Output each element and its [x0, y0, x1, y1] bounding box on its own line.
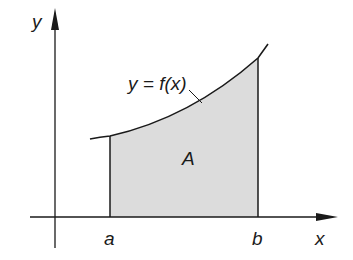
lower-bound-label: a — [104, 228, 115, 249]
curve-label-leader — [189, 90, 202, 103]
curve-label: y = f(x) — [126, 73, 187, 94]
y-axis-label: y — [30, 11, 43, 32]
y-axis-arrow-icon — [51, 8, 59, 30]
x-axis-label: x — [314, 228, 326, 249]
upper-bound-label: b — [252, 228, 263, 249]
area-under-curve-diagram: y x y = f(x) A a b — [0, 0, 353, 260]
x-axis-arrow-icon — [316, 213, 338, 221]
diagram-canvas: y x y = f(x) A a b — [0, 0, 353, 260]
area-label: A — [181, 148, 195, 169]
